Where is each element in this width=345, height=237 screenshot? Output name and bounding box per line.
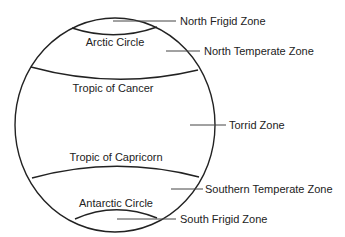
tropic-of-cancer-line bbox=[31, 67, 198, 79]
antarctic-circle-line bbox=[75, 210, 157, 219]
torrid-zone-label: Torrid Zone bbox=[229, 119, 285, 131]
arctic-circle-line bbox=[72, 27, 157, 35]
south-frigid-zone-label: South Frigid Zone bbox=[180, 213, 267, 225]
north-temperate-zone-label: North Temperate Zone bbox=[204, 45, 314, 57]
climate-zones-diagram: Arctic Circle Tropic of Cancer Tropic of… bbox=[0, 0, 345, 237]
antarctic-circle-label: Antarctic Circle bbox=[79, 197, 153, 209]
north-frigid-zone-label: North Frigid Zone bbox=[180, 15, 266, 27]
tropic-of-capricorn-label: Tropic of Capricorn bbox=[69, 151, 162, 163]
southern-temperate-zone-label: Southern Temperate Zone bbox=[205, 183, 333, 195]
tropic-of-cancer-label: Tropic of Cancer bbox=[73, 82, 154, 94]
tropic-of-capricorn-line bbox=[32, 166, 199, 178]
arctic-circle-label: Arctic Circle bbox=[86, 36, 145, 48]
